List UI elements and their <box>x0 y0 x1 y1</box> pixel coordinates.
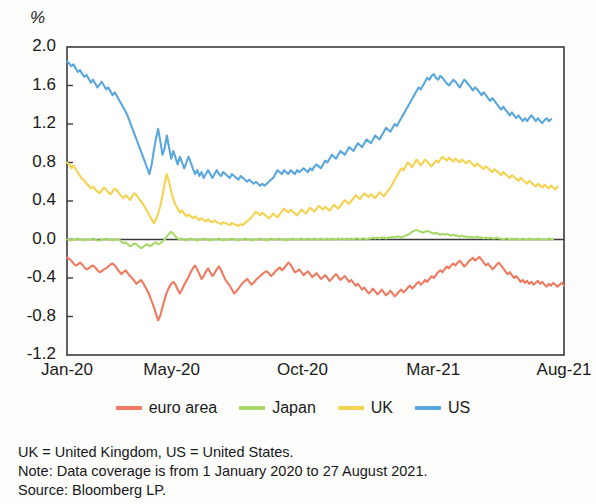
x-tick-label: Oct-20 <box>247 360 357 380</box>
x-tick-label: Jan-20 <box>12 360 122 380</box>
legend-item-uk[interactable]: UK <box>338 399 393 417</box>
legend-item-euro-area[interactable]: euro area <box>116 399 218 417</box>
y-tick-label: 1.2 <box>8 113 56 133</box>
footnote-note: Note: Data coverage is from 1 January 20… <box>18 462 578 481</box>
y-tick-label: -0.8 <box>8 306 56 326</box>
y-tick-label: 0.4 <box>8 190 56 210</box>
y-tick-label: 1.6 <box>8 75 56 95</box>
x-tick-label: Aug-21 <box>509 360 596 380</box>
legend-label: Japan <box>272 399 316 417</box>
y-tick-label: 0.0 <box>8 229 56 249</box>
y-tick-label: 2.0 <box>8 36 56 56</box>
legend-swatch-icon <box>239 406 265 410</box>
footnotes: UK = United Kingdom, US = United States.… <box>18 443 578 500</box>
legend-label: euro area <box>149 399 218 417</box>
legend-swatch-icon <box>338 406 364 410</box>
legend-swatch-icon <box>415 406 441 410</box>
x-tick-label: May-20 <box>117 360 227 380</box>
x-tick-label: Mar-21 <box>378 360 488 380</box>
legend-label: US <box>448 399 470 417</box>
legend-item-japan[interactable]: Japan <box>239 399 316 417</box>
chart-legend: euro areaJapanUKUS <box>0 399 586 417</box>
y-tick-label: -0.4 <box>8 267 56 287</box>
footnote-source: Source: Bloomberg LP. <box>18 481 578 500</box>
legend-swatch-icon <box>116 406 142 410</box>
legend-item-us[interactable]: US <box>415 399 470 417</box>
footnote-abbreviations: UK = United Kingdom, US = United States. <box>18 443 578 462</box>
legend-label: UK <box>371 399 393 417</box>
y-tick-label: 0.8 <box>8 152 56 172</box>
